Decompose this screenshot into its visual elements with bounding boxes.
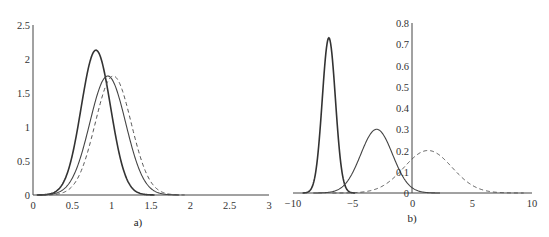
chart-b-axes: −10−5051000.10.20.30.40.50.60.70.8 bbox=[285, 18, 537, 209]
y-tick-label: 0.4 bbox=[396, 103, 410, 114]
curve-solid-thick bbox=[303, 38, 356, 193]
x-tick-label: 1 bbox=[109, 200, 114, 211]
y-tick-label: 2.5 bbox=[17, 20, 30, 31]
figure-canvas: 00.511.522.5300.511.522.5 a) −10−5051000… bbox=[0, 0, 549, 237]
y-tick-label: 1.5 bbox=[17, 88, 30, 99]
chart-b-curves bbox=[303, 38, 524, 193]
y-tick-label: 0.1 bbox=[396, 167, 409, 178]
chart-a-curves bbox=[37, 50, 185, 195]
x-tick-label: 3 bbox=[266, 200, 271, 211]
y-tick-label: 0.5 bbox=[17, 156, 30, 167]
x-tick-label: 0.5 bbox=[66, 200, 79, 211]
chart-b: −10−5051000.10.20.30.40.50.60.70.8 b) bbox=[285, 18, 537, 225]
curve-solid-thin bbox=[313, 129, 440, 193]
x-tick-label: 0 bbox=[410, 198, 415, 209]
y-tick-label: 0.8 bbox=[396, 18, 409, 29]
y-tick-label: 0.5 bbox=[396, 82, 409, 93]
x-tick-label: 0 bbox=[30, 200, 35, 211]
chart-a: 00.511.522.5300.511.522.5 a) bbox=[17, 20, 272, 229]
x-tick-label: 2 bbox=[188, 200, 193, 211]
x-tick-label: −5 bbox=[347, 198, 358, 209]
x-tick-label: 2.5 bbox=[223, 200, 236, 211]
x-tick-label: 5 bbox=[470, 198, 475, 209]
y-tick-label: 2 bbox=[25, 54, 30, 65]
x-tick-label: 10 bbox=[527, 198, 538, 209]
chart-a-caption: a) bbox=[134, 216, 143, 229]
curve-dashed bbox=[42, 76, 185, 195]
curve-dashed bbox=[332, 151, 523, 193]
y-tick-label: 0.3 bbox=[396, 124, 409, 135]
y-tick-label: 0 bbox=[404, 188, 409, 199]
x-tick-label: 1.5 bbox=[144, 200, 157, 211]
y-tick-label: 0.7 bbox=[396, 39, 409, 50]
y-tick-label: 0 bbox=[25, 190, 30, 201]
y-tick-label: 1 bbox=[25, 122, 30, 133]
x-tick-label: −10 bbox=[285, 198, 301, 209]
y-tick-label: 0.2 bbox=[396, 146, 409, 157]
chart-b-caption: b) bbox=[407, 212, 417, 225]
chart-a-axes: 00.511.522.5300.511.522.5 bbox=[17, 20, 272, 211]
y-tick-label: 0.6 bbox=[396, 61, 409, 72]
